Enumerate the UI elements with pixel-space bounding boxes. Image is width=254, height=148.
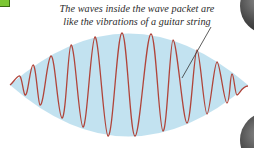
caption: The waves inside the wave packet are lik…	[52, 2, 222, 28]
caption-line-2: like the vibrations of a guitar string	[52, 15, 222, 28]
caption-line-1: The waves inside the wave packet are	[52, 2, 222, 15]
